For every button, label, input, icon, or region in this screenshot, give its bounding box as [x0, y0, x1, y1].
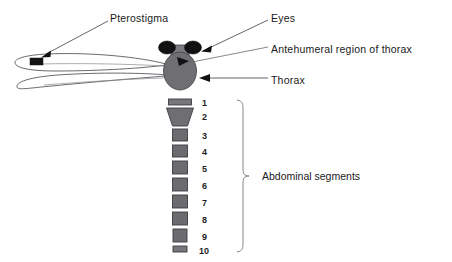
abdominal-segment	[167, 108, 194, 126]
thorax	[164, 52, 197, 90]
pterostigma-mark	[30, 58, 43, 65]
abdominal-segment	[173, 246, 187, 252]
segment-number: 9	[202, 232, 207, 242]
segment-number: 8	[202, 215, 207, 225]
segment-numbers-group: 1 2 3 4 5 6 7 8 9 10	[199, 98, 209, 256]
abdominal-segments-group	[167, 99, 194, 252]
leaders-group	[41, 20, 268, 82]
labels-group: Pterostigma Eyes Antehumeral region of t…	[110, 12, 413, 182]
label-pterostigma: Pterostigma	[110, 12, 168, 24]
segment-number: 10	[199, 246, 209, 256]
label-eyes: Eyes	[271, 12, 295, 24]
segment-number: 6	[202, 181, 207, 191]
left-eye	[159, 41, 176, 54]
segment-number: 7	[202, 198, 207, 208]
label-antehumeral-region: Antehumeral region of thorax	[271, 43, 413, 55]
diagram-canvas: 1 2 3 4 5 6 7 8 9 10	[0, 0, 452, 262]
label-thorax: Thorax	[271, 74, 305, 86]
pterostigma-leader-line	[46, 21, 108, 54]
lower-wing	[17, 73, 166, 89]
segment-number: 1	[202, 98, 207, 108]
abdominal-segment	[173, 178, 188, 191]
abdominal-segment	[173, 145, 188, 157]
dragonfly-anatomy-diagram: 1 2 3 4 5 6 7 8 9 10	[0, 0, 452, 262]
segment-number: 5	[202, 164, 207, 174]
abdominal-segment	[169, 99, 192, 105]
thorax-group	[164, 52, 197, 90]
segment-number: 3	[202, 131, 207, 141]
abdominal-segment	[173, 129, 188, 141]
abdominal-segment	[173, 161, 188, 174]
abdominal-brace-group	[237, 100, 249, 252]
label-abdominal-segments: Abdominal segments	[262, 170, 360, 182]
abdominal-brace	[237, 100, 249, 252]
segment-number: 2	[202, 112, 207, 122]
abdominal-segment	[173, 195, 188, 208]
thorax-arrowhead	[199, 74, 210, 82]
eyes-arrowhead	[201, 46, 212, 53]
wings-group	[15, 54, 166, 89]
right-eye	[185, 41, 202, 54]
abdominal-segment	[173, 229, 187, 242]
eyes-leader-line	[207, 20, 268, 49]
abdominal-segment	[173, 212, 188, 225]
segment-number: 4	[202, 147, 207, 157]
